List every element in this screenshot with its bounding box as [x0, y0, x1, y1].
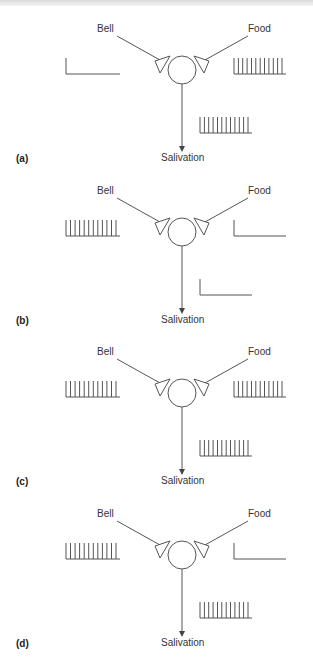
bell-activity-trace: [66, 58, 120, 74]
food-input-line: [205, 359, 248, 383]
salivation-label: Salivation: [161, 152, 204, 163]
panel-d: Bell Food Salivation (d): [0, 489, 313, 651]
food-input-line: [205, 198, 248, 222]
salivation-label: Salivation: [161, 475, 204, 486]
neuron-icon: [168, 541, 196, 569]
bell-activity-trace: [66, 220, 120, 236]
bell-label: Bell: [97, 23, 114, 34]
panel-c: Bell Food Salivation (c): [0, 327, 313, 489]
bell-input-line: [117, 198, 160, 222]
salivation-activity-trace: [200, 279, 252, 295]
food-label: Food: [248, 185, 271, 196]
food-label: Food: [248, 346, 271, 357]
salivation-label: Salivation: [161, 314, 204, 325]
bell-label: Bell: [97, 346, 114, 357]
salivation-activity-trace: [200, 117, 252, 133]
panel-letter: (a): [16, 153, 28, 164]
salivation-activity-trace: [200, 602, 252, 618]
food-label: Food: [248, 508, 271, 519]
panel-letter: (d): [16, 638, 29, 649]
panel-letter: (c): [16, 476, 28, 487]
food-activity-trace: [234, 543, 286, 559]
panel-b: Bell Food Salivation (b): [0, 166, 313, 328]
food-input-line: [205, 36, 248, 60]
bell-activity-trace: [66, 543, 120, 559]
bell-label: Bell: [97, 185, 114, 196]
neuron-icon: [168, 379, 196, 407]
bell-label: Bell: [97, 508, 114, 519]
neuron-icon: [168, 218, 196, 246]
food-activity-trace: [234, 58, 286, 74]
panel-letter: (b): [16, 315, 29, 326]
food-label: Food: [248, 23, 271, 34]
neuron-icon: [168, 56, 196, 84]
food-activity-trace: [234, 220, 286, 236]
salivation-label: Salivation: [161, 637, 204, 648]
food-input-line: [205, 521, 248, 545]
bell-input-line: [117, 359, 160, 383]
bell-input-line: [117, 521, 160, 545]
panel-a: Bell Food Salivation (a): [0, 4, 313, 166]
food-activity-trace: [234, 381, 286, 397]
bell-activity-trace: [66, 381, 120, 397]
salivation-activity-trace: [200, 440, 252, 456]
bell-input-line: [117, 36, 160, 60]
